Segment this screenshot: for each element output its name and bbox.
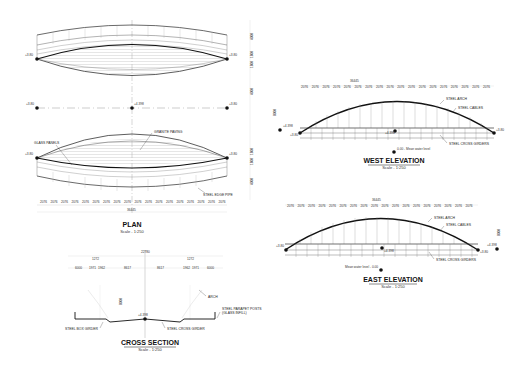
svg-text:1962: 1962 <box>183 266 190 270</box>
svg-text:2076: 2076 <box>361 204 368 208</box>
svg-text:2076: 2076 <box>198 200 205 204</box>
svg-text:2076: 2076 <box>298 204 305 208</box>
svg-text:1800: 1800 <box>250 51 254 58</box>
callout-granite-paving: GRANITE PAVING <box>154 130 183 134</box>
svg-text:1971: 1971 <box>89 266 96 270</box>
west-elevation-scale: Scale - 1:250 <box>382 165 406 170</box>
west-elevation-title: WEST ELEVATION <box>363 157 424 164</box>
svg-text:2076: 2076 <box>344 85 351 89</box>
svg-text:2076: 2076 <box>93 200 100 204</box>
svg-text:(GLASS INFILL): (GLASS INFILL) <box>222 311 247 315</box>
svg-text:2076: 2076 <box>376 85 383 89</box>
svg-text:2076: 2076 <box>322 85 329 89</box>
level-label: +3.80 <box>25 53 33 57</box>
cross-section-scale: Scale - 1:250 <box>138 347 162 352</box>
level-label: +3.80 <box>480 250 488 254</box>
svg-text:2076: 2076 <box>312 85 319 89</box>
callout-glass-panels: GLASS PANELS <box>34 141 60 145</box>
svg-text:2076: 2076 <box>156 200 163 204</box>
svg-text:2076: 2076 <box>114 200 121 204</box>
svg-text:8617: 8617 <box>157 266 164 270</box>
svg-text:1800: 1800 <box>250 158 254 165</box>
east-overall-dimension: 36445 <box>372 198 381 202</box>
west-bay-dimensions: 2076 2076 2076 2076 2076 2076 2076 2076 … <box>301 85 490 89</box>
callout-steel-edge-pipe: STEEL EDGE PIPE <box>203 193 234 197</box>
east-elevation-title: EAST ELEVATION <box>363 276 423 283</box>
svg-text:2076: 2076 <box>429 85 436 89</box>
level-label: +4.398 <box>385 131 395 135</box>
level-label: +3.80 <box>229 53 237 57</box>
svg-text:2076: 2076 <box>103 200 110 204</box>
east-bay-dimensions: 2076 2076 2076 2076 2076 2076 2076 2076 … <box>287 204 473 208</box>
west-elevation-view: 36445 2076 2076 2076 2076 2076 2076 2076… <box>273 79 504 170</box>
svg-text:4000: 4000 <box>250 178 254 185</box>
svg-text:2076: 2076 <box>434 204 441 208</box>
svg-text:4000: 4000 <box>250 33 254 40</box>
callout-steel-arch: STEEL ARCH <box>434 216 456 220</box>
level-label: +3.80 <box>229 102 237 106</box>
svg-text:2076: 2076 <box>403 204 410 208</box>
svg-text:2076: 2076 <box>462 85 469 89</box>
level-label: +4.398 <box>138 313 148 317</box>
plan-scale: Scale - 1:250 <box>120 229 144 234</box>
svg-text:1272: 1272 <box>92 257 99 261</box>
support-node <box>225 57 229 61</box>
svg-text:2076: 2076 <box>301 85 308 89</box>
svg-text:2076: 2076 <box>413 204 420 208</box>
svg-text:2076: 2076 <box>40 200 47 204</box>
water-level-label: 0.00 - Mean water level <box>397 147 430 151</box>
svg-text:2076: 2076 <box>392 204 399 208</box>
level-label: +3.80 <box>25 152 33 156</box>
svg-text:2076: 2076 <box>124 200 131 204</box>
west-overall-dimension: 36445 <box>350 79 359 83</box>
plan-overall-dimension: 36445 <box>127 208 136 212</box>
callout-cross-girders: STEEL CROSS GIRDERS <box>449 142 490 146</box>
support-node <box>35 57 39 61</box>
svg-text:2076: 2076 <box>177 200 184 204</box>
callout-cross-girders: STEEL CROSS GIRDERS <box>436 258 477 262</box>
svg-text:2076: 2076 <box>166 200 173 204</box>
callout-steel-arch: STEEL ARCH <box>446 97 468 101</box>
svg-text:2076: 2076 <box>82 200 89 204</box>
callout-cross-girder: STEEL CROSS GIRDER <box>167 327 205 331</box>
cross-section-title: CROSS SECTION <box>121 339 179 346</box>
svg-text:2076: 2076 <box>466 204 473 208</box>
svg-text:2076: 2076 <box>287 204 294 208</box>
svg-text:2076: 2076 <box>308 204 315 208</box>
svg-text:2076: 2076 <box>472 85 479 89</box>
water-level-label: Mean water level - 0.00 <box>345 265 378 269</box>
svg-text:2076: 2076 <box>219 200 226 204</box>
svg-text:6000: 6000 <box>75 266 82 270</box>
svg-text:2076: 2076 <box>483 85 490 89</box>
svg-text:2076: 2076 <box>408 85 415 89</box>
east-elevation-scale: Scale - 1:250 <box>381 284 405 289</box>
plan-side-dimensions: 4000 1800 1800 4000 1800 1800 4000 <box>250 20 254 200</box>
callout-steel-cables: STEEL CABLES <box>458 106 484 110</box>
callout-arch: ARCH <box>208 295 218 299</box>
callout-steel-cables: STEEL CABLES <box>446 223 472 227</box>
svg-text:2076: 2076 <box>424 204 431 208</box>
svg-text:2076: 2076 <box>61 200 68 204</box>
svg-text:8617: 8617 <box>124 266 131 270</box>
svg-text:2076: 2076 <box>187 200 194 204</box>
svg-text:8000: 8000 <box>497 229 501 236</box>
svg-text:1800: 1800 <box>250 148 254 155</box>
level-label: +3.80 <box>276 244 284 248</box>
plan-bay-dimensions: 2076 2076 2076 2076 2076 2076 2076 2076 … <box>40 200 226 204</box>
section-overall-dimension: 22780 <box>141 250 150 254</box>
svg-text:2076: 2076 <box>382 204 389 208</box>
svg-text:2076: 2076 <box>455 204 462 208</box>
svg-text:2076: 2076 <box>445 204 452 208</box>
plan-title: PLAN <box>122 221 141 228</box>
svg-text:2076: 2076 <box>51 200 58 204</box>
level-label: +3.80 <box>26 102 34 106</box>
svg-text:2076: 2076 <box>72 200 79 204</box>
svg-text:1272: 1272 <box>187 257 194 261</box>
svg-text:1800: 1800 <box>250 61 254 68</box>
svg-text:2076: 2076 <box>340 204 347 208</box>
level-label: +4.398 <box>283 124 293 128</box>
svg-text:6000: 6000 <box>207 266 214 270</box>
svg-text:2076: 2076 <box>208 200 215 204</box>
svg-text:2076: 2076 <box>135 200 142 204</box>
callout-box-girder: STEEL BOX GIRDER <box>65 327 98 331</box>
